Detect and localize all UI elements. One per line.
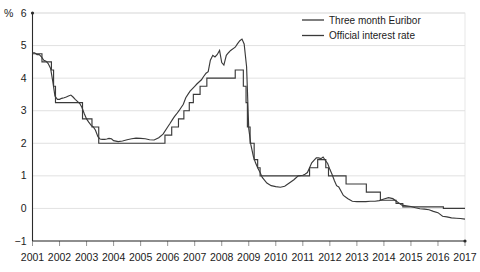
x-axis-tick-labels: 2001200220032004200520062007200820092010… <box>21 251 477 263</box>
x-tick-label: 2007 <box>183 251 207 263</box>
x-tick-label: 2011 <box>292 251 315 263</box>
y-tick-label: 5 <box>21 39 27 51</box>
y-tick-label: 1 <box>21 169 27 181</box>
y-tick-label: 4 <box>21 72 27 84</box>
x-tick-label: 2009 <box>237 251 261 263</box>
y-tick-label: 3 <box>21 104 27 116</box>
chart-container: 6543210−1 200120022003200420052006200720… <box>0 0 480 272</box>
x-tick-label: 2017 <box>453 251 477 263</box>
x-tick-label: 2016 <box>426 251 450 263</box>
legend-label-0: Three month Euribor <box>329 15 421 26</box>
x-axis-end-cap <box>463 239 466 242</box>
x-tick-label: 2001 <box>21 251 45 263</box>
legend-label-1: Official interest rate <box>329 30 415 41</box>
x-tick-label: 2008 <box>210 251 234 263</box>
y-tick-label: −1 <box>15 235 27 247</box>
x-tick-label: 2006 <box>156 251 180 263</box>
x-tick-label: 2013 <box>345 251 369 263</box>
y-tick-label: 2 <box>21 137 27 149</box>
x-tick-label: 2002 <box>48 251 72 263</box>
x-tick-label: 2004 <box>102 251 126 263</box>
x-tick-label: 2005 <box>129 251 153 263</box>
x-tick-label: 2003 <box>75 251 99 263</box>
y-tick-label: 0 <box>21 202 27 214</box>
interest-rate-line-chart: 6543210−1 200120022003200420052006200720… <box>0 0 480 272</box>
x-tick-label: 2012 <box>318 251 342 263</box>
x-tick-label: 2014 <box>372 251 396 263</box>
y-tick-label: 6 <box>21 7 27 19</box>
y-axis-unit-label: % <box>4 7 13 19</box>
y-axis-end-cap <box>31 11 34 14</box>
x-tick-label: 2010 <box>264 251 288 263</box>
x-tick-label: 2015 <box>399 251 423 263</box>
